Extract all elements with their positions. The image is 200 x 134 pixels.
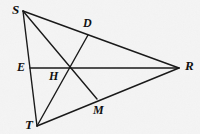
point-label-h: H (48, 69, 59, 83)
point-label-e: E (16, 60, 25, 74)
point-label-m: M (92, 103, 104, 117)
point-label-s: S (12, 2, 19, 17)
geometry-figure: S T R D E M H (0, 0, 200, 134)
point-label-t: T (25, 117, 34, 132)
point-label-d: D (82, 16, 92, 30)
geometry-figure-canvas: S T R D E M H (0, 0, 200, 134)
point-label-r: R (184, 58, 194, 73)
